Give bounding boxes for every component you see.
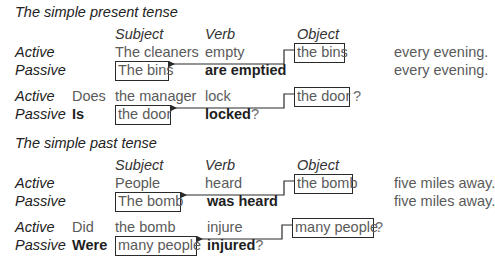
connector-arrows (0, 0, 495, 266)
arrow-icon (170, 50, 294, 64)
arrow-icon (172, 94, 294, 108)
arrow-icon (182, 181, 294, 195)
arrow-lines (170, 50, 294, 239)
arrow-icon (198, 225, 292, 239)
